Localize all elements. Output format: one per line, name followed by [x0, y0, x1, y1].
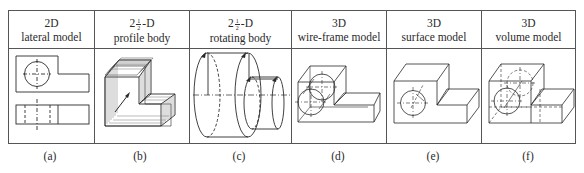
- panel-e-surface-model: 3D surface model: [386, 11, 481, 143]
- panel-a-lateral-model: 2D lateral model: [9, 11, 94, 143]
- caption-b: (b): [120, 150, 160, 162]
- panel-b-header: 212-D profile body: [95, 13, 189, 47]
- fraction: 12: [136, 18, 141, 31]
- profile-body-drawing: [95, 49, 189, 143]
- panel-d-wire-frame-model: 3D wire-frame model: [291, 11, 386, 143]
- wire-frame-drawing: [292, 49, 386, 143]
- panel-a-header: 2D lateral model: [9, 13, 94, 47]
- panel-a-subtitle: lateral model: [9, 30, 94, 44]
- caption-e: (e): [413, 150, 453, 162]
- panel-c-subtitle: rotating body: [190, 31, 291, 45]
- lateral-model-drawing: [9, 49, 94, 143]
- model-comparison-table: 2D lateral model 212-D profile body: [8, 10, 576, 144]
- panel-c-rotating-body: 212-D rotating body: [189, 11, 291, 143]
- panel-e-header: 3D surface model: [387, 13, 481, 47]
- panel-d-title: 3D: [292, 13, 386, 30]
- surface-model-drawing: [387, 49, 481, 143]
- panel-c-title: 212-D: [190, 13, 291, 31]
- caption-f: (f): [508, 150, 548, 162]
- panel-d-subtitle: wire-frame model: [292, 30, 386, 44]
- panel-f-title: 3D: [482, 13, 575, 30]
- panel-a-title: 2D: [9, 13, 94, 30]
- volume-model-drawing: [482, 49, 575, 143]
- caption-c: (c): [219, 150, 259, 162]
- panel-e-subtitle: surface model: [387, 30, 481, 44]
- panel-f-header: 3D volume model: [482, 13, 575, 47]
- panel-f-volume-model: 3D volume model: [481, 11, 575, 143]
- panel-b-profile-body: 212-D profile body: [94, 11, 189, 143]
- rotating-body-drawing: [190, 49, 291, 143]
- fraction: 12: [235, 18, 240, 31]
- panel-c-header: 212-D rotating body: [190, 13, 291, 47]
- panel-f-subtitle: volume model: [482, 30, 575, 44]
- caption-a: (a): [30, 150, 70, 162]
- caption-d: (d): [318, 150, 358, 162]
- panel-b-title: 212-D: [95, 13, 189, 31]
- panel-b-subtitle: profile body: [95, 31, 189, 45]
- panel-d-header: 3D wire-frame model: [292, 13, 386, 47]
- panel-e-title: 3D: [387, 13, 481, 30]
